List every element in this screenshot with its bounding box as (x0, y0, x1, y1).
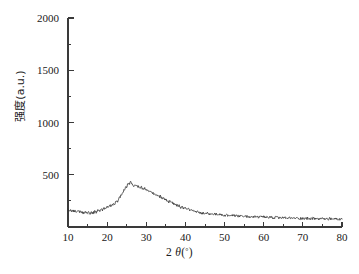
x-axis-tick-labels: 1020304050607080 (63, 231, 349, 243)
y-tick-label: 2000 (37, 12, 60, 24)
x-tick-label: 10 (63, 231, 75, 243)
y-axis-title: 强度(a.u.) (11, 31, 27, 161)
y-axis-ticks (68, 18, 74, 201)
x-tick-label: 20 (102, 231, 114, 243)
x-tick-label: 70 (297, 231, 309, 243)
x-tick-label: 30 (141, 231, 153, 243)
y-tick-label: 1000 (37, 117, 60, 129)
y-axis-tick-labels: 500100015002000 (37, 12, 60, 181)
x-tick-label: 40 (180, 231, 192, 243)
x-axis-title-prefix: 2 (166, 246, 172, 258)
x-tick-label: 80 (337, 231, 349, 243)
chart-plot-area: 1020304050607080 500100015002000 (0, 0, 359, 274)
x-axis-ticks (68, 222, 342, 228)
y-tick-label: 500 (43, 169, 60, 181)
xrd-intensity-curve (68, 181, 342, 220)
axes-group (68, 18, 342, 227)
x-tick-label: 60 (258, 231, 270, 243)
x-axis-title: 2 θ(°) (0, 246, 359, 258)
y-tick-label: 1500 (37, 64, 60, 76)
xrd-chart-figure: 1020304050607080 500100015002000 2 θ(°) … (0, 0, 359, 274)
x-axis-title-paren-close: ) (189, 246, 193, 258)
x-tick-label: 50 (219, 231, 231, 243)
